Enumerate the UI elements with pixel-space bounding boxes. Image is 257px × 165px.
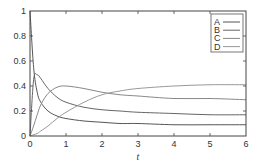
x-tick-label: 1 (63, 139, 68, 149)
legend-label-d: D (214, 42, 221, 52)
x-tick-label: 0 (27, 139, 32, 149)
y-tick-label: 0.6 (13, 56, 26, 66)
x-tick-label: 5 (207, 139, 212, 149)
y-tick-label: 0.4 (13, 81, 26, 91)
x-axis-label: t (137, 151, 140, 162)
y-tick-label: 0.8 (13, 31, 26, 41)
series-line-b (30, 73, 246, 136)
x-tick-label: 4 (171, 139, 176, 149)
x-tick-label: 3 (135, 139, 140, 149)
series-line-c (30, 86, 246, 136)
x-tick-label: 6 (243, 139, 248, 149)
line-chart: 012345600.20.40.60.81 t ABCD (0, 0, 257, 165)
y-tick-label: 0 (21, 131, 26, 141)
y-tick-label: 1 (21, 6, 26, 16)
legend: ABCD (211, 14, 243, 52)
y-tick-label: 0.2 (13, 106, 26, 116)
series-line-d (30, 85, 246, 136)
x-tick-label: 2 (99, 139, 104, 149)
